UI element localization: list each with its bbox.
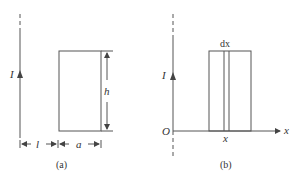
current-label-b: I — [161, 69, 167, 81]
diagram: I h l a (a) I x O dx x (b) — [0, 0, 298, 182]
current-arrow-icon-b — [170, 72, 176, 80]
origin-label: O — [162, 125, 170, 137]
distance-label: l — [36, 138, 39, 150]
figure-a: I h l a (a) — [9, 14, 113, 171]
caption-a: (a) — [56, 159, 67, 171]
height-label: h — [104, 85, 110, 97]
figure-b: I x O dx x (b) — [161, 14, 289, 171]
current-label: I — [9, 68, 15, 80]
width-label: a — [76, 138, 82, 150]
strip-label: dx — [220, 38, 230, 49]
position-label: x — [222, 132, 228, 144]
current-arrow-icon — [17, 70, 23, 78]
rectangular-loop-b — [209, 51, 251, 131]
caption-b: (b) — [220, 159, 232, 171]
axis-label: x — [283, 124, 289, 136]
rectangular-loop — [59, 51, 101, 131]
